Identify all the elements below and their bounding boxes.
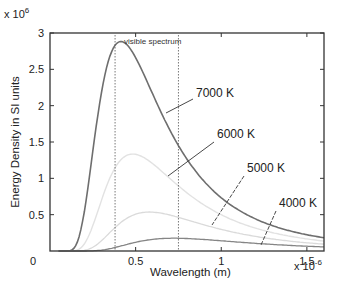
y-tick-label: 2 <box>38 100 44 112</box>
blackbody-chart: 0.511.50.511.522.53 7000 K6000 K5000 K40… <box>0 0 340 298</box>
x-tick-label: 0.5 <box>128 255 143 267</box>
plot-curves <box>59 42 324 252</box>
curve-annotations: 7000 K6000 K5000 K4000 K <box>166 86 317 245</box>
annotation-5000k: 5000 K <box>247 161 285 175</box>
visible-spectrum-lines <box>115 35 178 251</box>
x-multiplier: x 10-6 <box>294 258 322 272</box>
curve-7000k <box>59 42 324 252</box>
visible-spectrum-label: visible spectrum <box>124 37 182 46</box>
y-tick-label: 2.5 <box>29 63 44 75</box>
origin-label: 0 <box>30 255 36 267</box>
plot-frame <box>50 33 324 251</box>
y-multiplier: x 106 <box>4 6 30 20</box>
annotation-pointer <box>261 211 276 245</box>
y-axis-title: Energy Density in SI units <box>9 76 21 208</box>
annotation-pointer <box>166 99 193 113</box>
axis-ticks: 0.511.50.511.522.53 <box>29 27 324 267</box>
x-axis-title: Wavelength (m) <box>150 266 231 278</box>
y-tick-label: 0.5 <box>29 209 44 221</box>
annotation-4000k: 4000 K <box>279 196 317 210</box>
y-tick-label: 1 <box>38 172 44 184</box>
annotation-pointer <box>168 142 214 176</box>
y-tick-label: 3 <box>38 27 44 39</box>
annotation-7000k: 7000 K <box>196 86 234 100</box>
annotation-6000k: 6000 K <box>217 127 255 141</box>
y-tick-label: 1.5 <box>29 136 44 148</box>
